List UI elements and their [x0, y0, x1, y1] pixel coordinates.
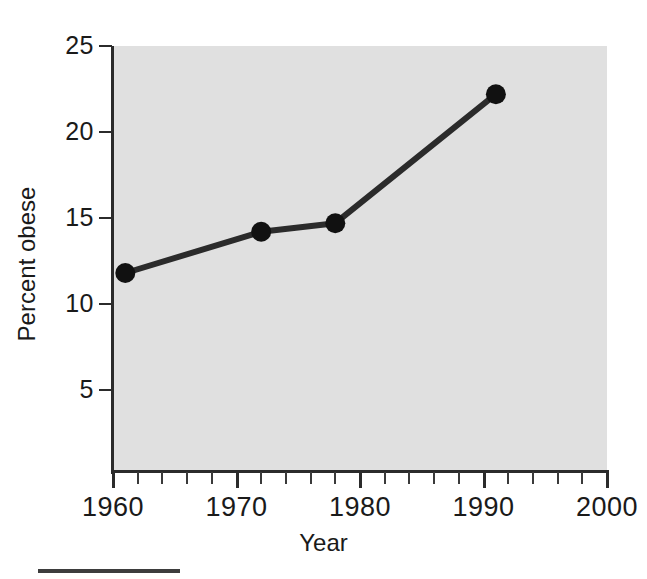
y-tick-label: 20	[40, 119, 94, 144]
x-tick-mark-minor	[458, 472, 460, 484]
x-tick-mark-major	[112, 472, 115, 488]
y-tick-mark	[99, 303, 112, 305]
y-tick-label-wrap: 15	[34, 205, 94, 231]
x-tick-label: 1980	[305, 494, 415, 521]
x-tick-mark-minor	[310, 472, 312, 484]
x-tick-mark-minor	[507, 472, 509, 484]
y-tick-label-wrap: 20	[34, 119, 94, 145]
x-tick-mark-minor	[408, 472, 410, 484]
x-tick-mark-minor	[186, 472, 188, 484]
x-tick-mark-minor	[557, 472, 559, 484]
x-tick-mark-minor	[285, 472, 287, 484]
y-axis-line	[111, 46, 114, 474]
y-tick-label: 10	[40, 291, 94, 316]
x-tick-label: 2000	[552, 494, 647, 521]
x-tick-label: 1970	[182, 494, 292, 521]
x-tick-mark-minor	[532, 472, 534, 484]
x-tick-mark-minor	[384, 472, 386, 484]
y-tick-label-wrap: 25	[34, 33, 94, 59]
y-tick-label: 15	[40, 205, 94, 230]
y-tick-mark	[99, 389, 112, 391]
x-tick-mark-major	[236, 472, 239, 488]
x-tick-mark-minor	[334, 472, 336, 484]
y-tick-label: 25	[40, 33, 94, 58]
x-tick-label: 1960	[58, 494, 168, 521]
chart-figure: 510152025 19601970198019902000 Year Perc…	[0, 0, 647, 579]
x-axis-title: Year	[0, 531, 647, 555]
x-tick-mark-minor	[260, 472, 262, 484]
x-tick-mark-minor	[161, 472, 163, 484]
x-tick-mark-major	[606, 472, 609, 488]
x-tick-mark-major	[483, 472, 486, 488]
y-tick-label-wrap: 5	[34, 377, 94, 403]
plot-area	[113, 46, 607, 470]
y-tick-mark	[99, 217, 112, 219]
x-tick-label: 1990	[429, 494, 539, 521]
footer-rule	[38, 569, 180, 573]
y-tick-mark	[99, 131, 112, 133]
x-tick-mark-major	[359, 472, 362, 488]
x-tick-mark-minor	[581, 472, 583, 484]
x-tick-mark-minor	[211, 472, 213, 484]
y-axis-title: Percent obese	[15, 149, 39, 379]
y-tick-label-wrap: 10	[34, 291, 94, 317]
x-tick-mark-minor	[433, 472, 435, 484]
x-tick-mark-minor	[137, 472, 139, 484]
y-tick-mark	[99, 45, 112, 47]
y-tick-label: 5	[40, 377, 94, 402]
